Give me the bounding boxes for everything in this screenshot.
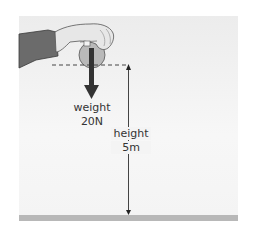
hand-holding-ball-icon xyxy=(19,24,114,68)
weight-value: 20N xyxy=(72,115,112,128)
diagram-artwork xyxy=(0,0,253,229)
height-label: height xyxy=(111,127,151,140)
height-value: 5m xyxy=(111,141,151,154)
weight-label: weight xyxy=(72,101,112,114)
